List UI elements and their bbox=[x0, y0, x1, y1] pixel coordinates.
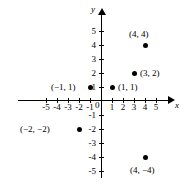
y-axis-arrow-icon bbox=[98, 8, 106, 15]
y-tick-label: 4 bbox=[80, 41, 96, 50]
point-neg2-neg2-label: (−2, −2) bbox=[20, 125, 50, 134]
y-tick-label: 3 bbox=[80, 55, 96, 64]
y-tick-mark bbox=[99, 73, 104, 74]
y-tick-mark bbox=[99, 31, 104, 32]
y-tick-label: -2 bbox=[80, 125, 96, 134]
point-3-2-label: (3, 2) bbox=[140, 69, 160, 78]
y-tick-label: -3 bbox=[80, 139, 96, 148]
y-axis-line bbox=[101, 12, 102, 178]
x-axis-arrow-icon bbox=[168, 96, 175, 104]
y-tick-mark bbox=[99, 59, 104, 60]
point-4-4 bbox=[143, 43, 148, 48]
y-tick-mark bbox=[99, 115, 104, 116]
point-neg1-1 bbox=[88, 85, 93, 90]
y-tick-label: -1 bbox=[80, 111, 96, 120]
y-tick-mark bbox=[99, 143, 104, 144]
point-neg2-neg2 bbox=[77, 127, 82, 132]
x-axis-line bbox=[18, 100, 170, 101]
point-neg1-1-label: (−1, 1) bbox=[51, 83, 76, 92]
point-4-neg4-label: (4, −4) bbox=[130, 166, 155, 175]
x-axis-label: x bbox=[175, 101, 179, 110]
point-1-1-label: (1, 1) bbox=[118, 83, 138, 92]
point-4-neg4 bbox=[143, 155, 148, 160]
y-tick-label: 2 bbox=[80, 69, 96, 78]
x-tick-label: 5 bbox=[148, 103, 164, 112]
y-axis-label: y bbox=[91, 5, 95, 14]
point-1-1 bbox=[110, 85, 115, 90]
y-tick-mark bbox=[99, 45, 104, 46]
y-tick-mark bbox=[99, 171, 104, 172]
point-3-2 bbox=[132, 71, 137, 76]
point-4-4-label: (4, 4) bbox=[129, 30, 149, 39]
y-tick-mark bbox=[99, 87, 104, 88]
y-tick-mark bbox=[99, 157, 104, 158]
y-tick-mark bbox=[99, 129, 104, 130]
y-tick-label: 5 bbox=[80, 27, 96, 36]
coordinate-plane-figure: x y 0 -5-4-3-2-112345 54321-1-2-3-4-5 (4… bbox=[0, 0, 184, 190]
y-tick-label: -4 bbox=[80, 153, 96, 162]
y-tick-label: -5 bbox=[80, 167, 96, 176]
